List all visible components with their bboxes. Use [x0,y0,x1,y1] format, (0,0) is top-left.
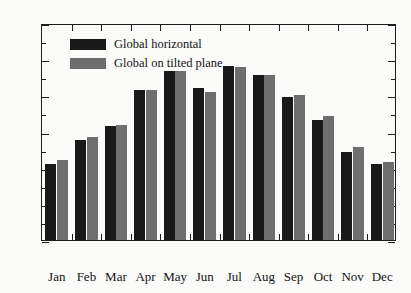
y-tick-minor-right [391,152,395,153]
x-tick-label: Dec [372,269,393,285]
y-tick-major [42,25,49,26]
bar-jan-global-horizontal [45,164,56,240]
y-tick-major [42,97,49,98]
x-tick [367,234,368,240]
bar-jun-global-horizontal [193,88,204,240]
x-tick [338,234,339,240]
x-tick-top [101,25,102,31]
bar-dec-global-horizontal [371,164,382,240]
y-tick-major-right [388,242,395,243]
x-tick-label: Sep [284,269,304,285]
x-tick-top [249,25,250,31]
x-tick-top [131,25,132,31]
bar-aug-global-horizontal [253,75,264,240]
x-tick-label: Aug [253,269,275,285]
x-tick [190,234,191,240]
y-tick-major-right [388,25,395,26]
y-tick-minor [42,43,46,44]
y-tick-minor [42,79,46,80]
y-tick-major-right [388,134,395,135]
bar-aug-global-tilted [264,75,275,240]
legend-label-global-tilted: Global on tilted plane [114,57,223,70]
x-tick [101,234,102,240]
legend-item-global-horizontal: Global horizontal [70,35,223,54]
x-tick-label: Jan [48,269,65,285]
x-tick-top [160,25,161,31]
x-tick-top [190,25,191,31]
bar-jun-global-tilted [205,92,216,240]
bar-feb-global-horizontal [75,140,86,240]
y-tick-major [42,134,49,135]
y-tick-minor [42,152,46,153]
bar-feb-global-tilted [87,137,98,240]
legend-swatch-global-horizontal [70,39,106,50]
x-tick-label: Apr [135,269,155,285]
bar-sep-global-tilted [294,95,305,240]
bar-oct-global-horizontal [312,120,323,240]
x-tick [131,234,132,240]
y-tick-minor-right [391,115,395,116]
bar-jul-global-tilted [235,67,246,240]
x-tick [249,234,250,240]
y-tick-minor-right [391,43,395,44]
y-tick-minor [42,115,46,116]
x-tick-label: Mar [105,269,127,285]
bar-mar-global-tilted [116,125,127,240]
bar-jul-global-horizontal [223,66,234,240]
bar-nov-global-horizontal [341,152,352,240]
x-tick-top [72,25,73,31]
x-tick-top [279,25,280,31]
bar-nov-global-tilted [353,147,364,240]
legend-label-global-horizontal: Global horizontal [114,38,202,51]
x-tick [220,234,221,240]
y-tick-major [42,242,49,243]
bar-may-global-horizontal [164,71,175,240]
x-tick-top [308,25,309,31]
bar-apr-global-horizontal [134,90,145,240]
irradiation-bar-chart: Irradiation/[kW·h·(m2·d)-1] 0123456 JanF… [0,0,411,293]
x-tick-label: Oct [314,269,333,285]
x-tick-label: Jun [196,269,214,285]
bar-dec-global-tilted [383,162,394,240]
x-tick [160,234,161,240]
legend-swatch-global-tilted [70,58,106,69]
x-tick-label: Nov [341,269,363,285]
x-tick-top [367,25,368,31]
y-axis-title: Irradiation/[kW·h·(m2·d)-1] [0,64,1,201]
y-tick-major-right [388,97,395,98]
bar-oct-global-tilted [323,116,334,240]
plot-area: 0123456 JanFebMarAprMayJunJulAugSepOctNo… [41,24,396,241]
x-tick-top [220,25,221,31]
y-tick-minor-right [391,79,395,80]
x-tick-label: May [163,269,187,285]
bar-apr-global-tilted [146,90,157,240]
x-tick-top [338,25,339,31]
chart-legend: Global horizontal Global on tilted plane [70,35,223,73]
x-tick-label: Feb [77,269,97,285]
x-tick [308,234,309,240]
y-tick-major [42,61,49,62]
legend-item-global-tilted: Global on tilted plane [70,54,223,73]
x-tick [72,234,73,240]
y-tick-major-right [388,61,395,62]
bar-mar-global-horizontal [105,126,116,240]
bar-may-global-tilted [175,71,186,240]
bar-jan-global-tilted [57,160,68,240]
x-tick [279,234,280,240]
x-tick-label: Jul [227,269,242,285]
bar-sep-global-horizontal [282,97,293,240]
